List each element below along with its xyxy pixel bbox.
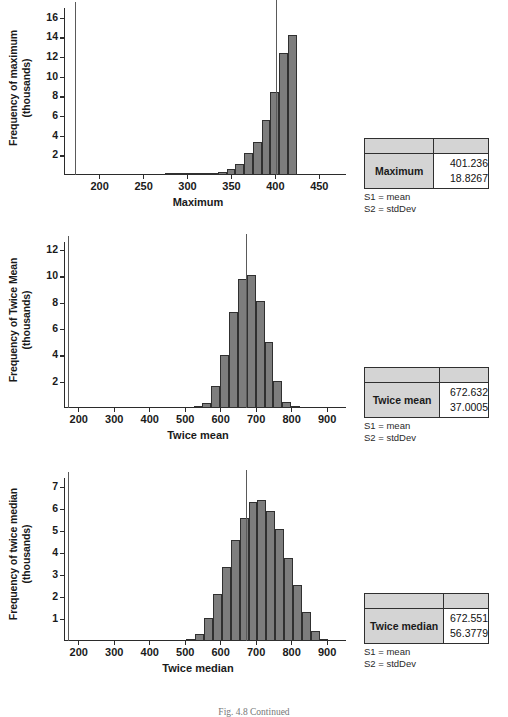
histogram-bar xyxy=(222,567,231,641)
y-tick-label: 1 xyxy=(52,612,58,624)
x-tick-label: 500 xyxy=(176,413,194,425)
y-tick-label: 16 xyxy=(46,11,58,23)
reference-line-left xyxy=(68,472,69,641)
histogram-bar xyxy=(204,618,213,641)
histogram-bar xyxy=(200,173,209,175)
chart-twice-median: Frequency of twice median(thousands) 123… xyxy=(0,466,352,698)
y-tick: 14 xyxy=(0,37,64,38)
y-tick: 4 xyxy=(0,136,64,137)
y-tick-label: 2 xyxy=(52,148,58,160)
table-row-label: Twice median xyxy=(365,609,444,644)
y-tick: 7 xyxy=(0,487,64,488)
x-tick-label: 300 xyxy=(105,646,123,658)
bars-group xyxy=(64,242,332,408)
y-tick-label: 3 xyxy=(52,568,58,580)
legend-line-s2: S2 = stdDev xyxy=(364,658,489,670)
bars-group xyxy=(64,8,332,175)
histogram-bar xyxy=(256,301,265,408)
x-tick-label: 400 xyxy=(266,180,284,192)
table-header-row xyxy=(365,594,489,609)
histogram-bar xyxy=(266,511,275,641)
histogram-bar xyxy=(282,402,291,408)
table-row-values: 672.551 56.3779 xyxy=(444,609,489,644)
legend-line-s1: S1 = mean xyxy=(364,420,489,432)
table-header-row xyxy=(365,368,489,383)
table-legend-maximum: S1 = mean S2 = stdDev xyxy=(364,191,489,214)
x-tick-label: 800 xyxy=(282,413,300,425)
x-tick-label: 600 xyxy=(211,646,229,658)
histogram-bar xyxy=(218,172,227,175)
y-tick-label: 7 xyxy=(52,480,58,492)
y-tick: 3 xyxy=(0,575,64,576)
table-legend-twice-mean: S1 = mean S2 = stdDev xyxy=(364,420,489,443)
x-axis-title-twice-mean: Twice mean xyxy=(64,429,332,441)
bars-group xyxy=(64,478,332,641)
histogram-bar xyxy=(265,342,274,408)
histogram-bar xyxy=(209,173,218,175)
histogram-bar xyxy=(227,169,236,175)
table-row: Maximum 401.236 18.8267 xyxy=(365,154,489,189)
histogram-bar xyxy=(311,631,320,641)
plot-area-twice-median: 1234567200300400500600700800900 xyxy=(64,478,332,641)
y-tick: 6 xyxy=(0,116,64,117)
table-header-label-cell xyxy=(365,139,434,154)
legend-line-s1: S1 = mean xyxy=(364,646,489,658)
y-tick-label: 8 xyxy=(52,296,58,308)
histogram-bar xyxy=(253,142,262,175)
stats-table-maximum: Maximum 401.236 18.8267 S1 = mean S2 = s… xyxy=(364,138,489,214)
table-header-row xyxy=(365,139,489,154)
histogram-bar xyxy=(257,500,266,641)
table-header-label-cell xyxy=(365,594,444,609)
x-tick-label: 250 xyxy=(134,180,152,192)
y-tick-label: 6 xyxy=(52,502,58,514)
histogram-bar xyxy=(262,120,271,175)
histogram-bar xyxy=(320,639,329,641)
y-tick: 8 xyxy=(0,96,64,97)
y-tick: 5 xyxy=(0,531,64,532)
stat-stddev-value: 18.8267 xyxy=(434,171,488,186)
histogram-bar xyxy=(229,312,238,408)
histogram-bar xyxy=(165,173,174,175)
y-tick: 10 xyxy=(0,276,64,277)
legend-line-s2: S2 = stdDev xyxy=(364,432,489,444)
plot-area-maximum: 246810121416200250300350400450 xyxy=(64,8,332,175)
y-axis-title-maximum: Frequency of maximum(thousands) xyxy=(0,0,42,175)
y-tick-label: 5 xyxy=(52,524,58,536)
histogram-bar xyxy=(302,612,311,641)
y-tick-label: 10 xyxy=(46,70,58,82)
y-tick: 4 xyxy=(0,553,64,554)
y-tick-label: 4 xyxy=(52,348,58,360)
histogram-bar xyxy=(194,406,203,408)
histogram-bar xyxy=(220,355,229,408)
stats-table-twice-mean: Twice mean 672.632 37.0005 S1 = mean S2 … xyxy=(364,367,489,443)
y-tick: 2 xyxy=(0,382,64,383)
histogram-bar xyxy=(240,518,249,641)
x-tick-label: 300 xyxy=(178,180,196,192)
y-tick-label: 12 xyxy=(46,243,58,255)
stat-stddev-value: 37.0005 xyxy=(440,400,488,415)
stats-table-twice-median: Twice median 672.551 56.3779 S1 = mean S… xyxy=(364,593,489,669)
histogram-bar xyxy=(235,164,244,175)
histogram-bar xyxy=(249,502,258,641)
table-header-label-cell xyxy=(365,368,440,383)
x-axis-title-twice-median: Twice median xyxy=(64,662,332,674)
table-row-values: 401.236 18.8267 xyxy=(434,154,489,189)
x-tick-label: 200 xyxy=(90,180,108,192)
stats-table: Maximum 401.236 18.8267 xyxy=(364,138,489,189)
y-tick: 12 xyxy=(0,250,64,251)
table-row: Twice mean 672.632 37.0005 xyxy=(365,383,489,418)
x-tick-label: 200 xyxy=(70,646,88,658)
panel-twice-median: Frequency of twice median(thousands) 123… xyxy=(0,466,508,698)
histogram-bar xyxy=(275,529,284,641)
x-tick-label: 500 xyxy=(176,646,194,658)
histogram-bar xyxy=(213,594,222,641)
x-tick-label: 400 xyxy=(141,646,159,658)
x-tick-label: 900 xyxy=(318,413,336,425)
x-tick-label: 450 xyxy=(310,180,328,192)
stat-mean-value: 672.632 xyxy=(440,385,488,400)
x-tick-label: 350 xyxy=(222,180,240,192)
reference-line-mean xyxy=(246,234,247,408)
y-tick: 4 xyxy=(0,355,64,356)
y-tick-label: 12 xyxy=(46,50,58,62)
